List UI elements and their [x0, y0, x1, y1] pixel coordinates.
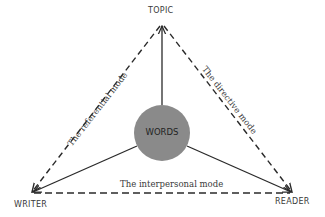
node-label-words: WORDS	[134, 127, 190, 137]
node-label-writer: WRITER	[14, 200, 47, 209]
edge-label-interpersonal: The interpersonal mode	[120, 179, 223, 189]
node-label-topic: TOPIC	[148, 6, 173, 15]
edge-right-dashed	[164, 26, 292, 192]
node-label-reader: READER	[275, 197, 310, 206]
